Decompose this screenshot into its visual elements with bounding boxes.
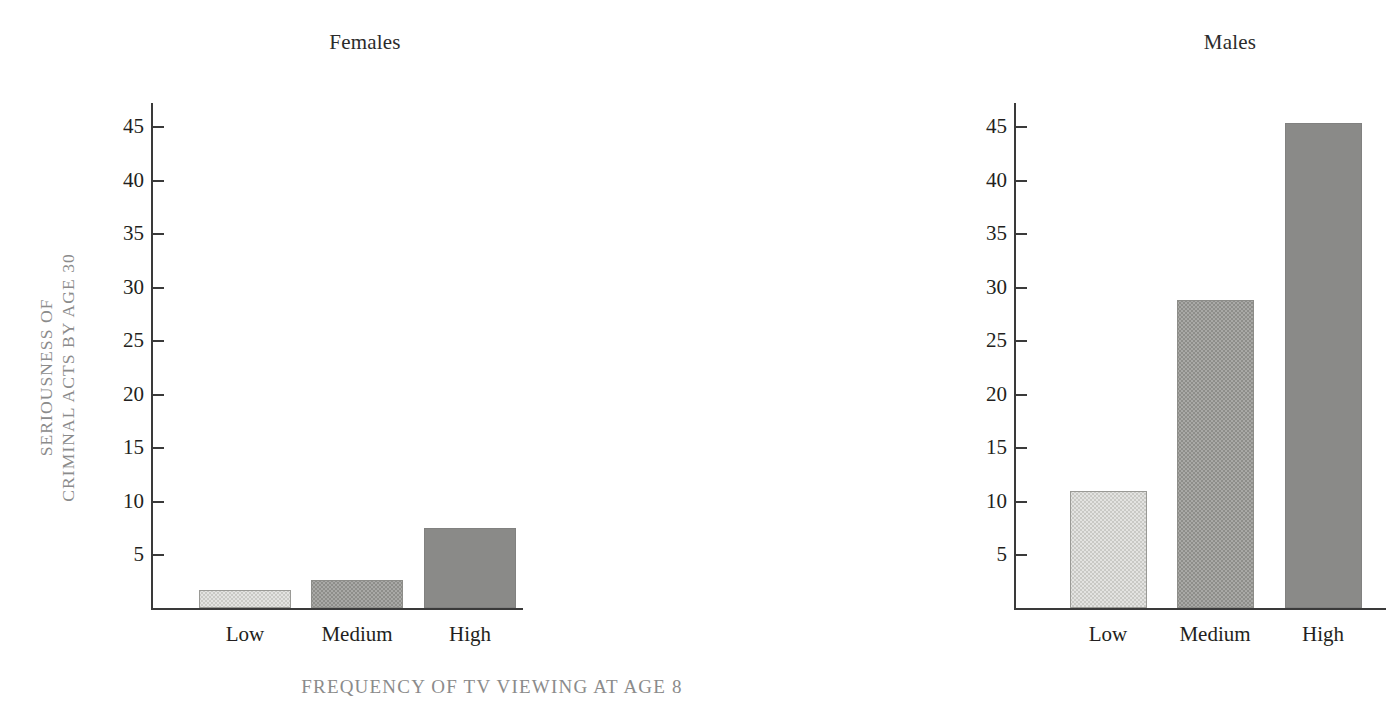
y-tick-label-45-males: 45 xyxy=(961,116,1007,137)
y-tick-45-males xyxy=(1016,126,1027,128)
y-tick-5-females xyxy=(153,554,164,556)
y-tick-label-5-males: 5 xyxy=(961,544,1007,565)
bar-males-high[interactable] xyxy=(1285,123,1362,608)
panel-males: Males 45 40 35 30 25 20 15 10 5 Low Medi… xyxy=(430,0,984,727)
y-tick-10-males xyxy=(1016,501,1027,503)
y-tick-30-males xyxy=(1016,287,1027,289)
y-tick-15-females xyxy=(153,447,164,449)
y-tick-label-30-females: 30 xyxy=(98,277,144,298)
panel-title-males: Males xyxy=(1070,30,1390,55)
y-tick-label-30-males: 30 xyxy=(961,277,1007,298)
y-tick-35-females xyxy=(153,233,164,235)
y-tick-label-35-females: 35 xyxy=(98,223,144,244)
bar-females-medium[interactable] xyxy=(311,580,403,608)
y-tick-25-females xyxy=(153,340,164,342)
y-tick-label-15-females: 15 xyxy=(98,437,144,458)
y-tick-label-10-females: 10 xyxy=(98,491,144,512)
y-tick-35-males xyxy=(1016,233,1027,235)
y-tick-label-15-males: 15 xyxy=(961,437,1007,458)
y-tick-label-35-males: 35 xyxy=(961,223,1007,244)
bar-males-low[interactable] xyxy=(1070,491,1147,608)
y-tick-20-females xyxy=(153,394,164,396)
y-tick-40-males xyxy=(1016,180,1027,182)
y-tick-label-25-females: 25 xyxy=(98,330,144,351)
x-category-label-medium-females: Medium xyxy=(311,622,403,647)
x-category-label-low-males: Low xyxy=(1062,622,1154,647)
y-tick-15-males xyxy=(1016,447,1027,449)
x-category-label-low-females: Low xyxy=(199,622,291,647)
y-tick-label-40-females: 40 xyxy=(98,170,144,191)
y-tick-label-25-males: 25 xyxy=(961,330,1007,351)
y-tick-label-40-males: 40 xyxy=(961,170,1007,191)
y-tick-label-45-females: 45 xyxy=(98,116,144,137)
bar-females-low[interactable] xyxy=(199,590,291,608)
y-tick-30-females xyxy=(153,287,164,289)
y-tick-40-females xyxy=(153,180,164,182)
x-axis-label: FREQUENCY OF TV VIEWING AT AGE 8 xyxy=(0,676,984,698)
x-axis-line-males xyxy=(1014,608,1386,610)
y-tick-label-10-males: 10 xyxy=(961,491,1007,512)
y-tick-5-males xyxy=(1016,554,1027,556)
y-tick-20-males xyxy=(1016,394,1027,396)
y-tick-label-20-males: 20 xyxy=(961,384,1007,405)
y-tick-25-males xyxy=(1016,340,1027,342)
y-tick-10-females xyxy=(153,501,164,503)
y-tick-45-females xyxy=(153,126,164,128)
x-category-label-high-males: High xyxy=(1277,622,1369,647)
y-tick-label-20-females: 20 xyxy=(98,384,144,405)
x-category-label-medium-males: Medium xyxy=(1169,622,1261,647)
bar-males-medium[interactable] xyxy=(1177,300,1254,608)
y-tick-label-5-females: 5 xyxy=(98,544,144,565)
